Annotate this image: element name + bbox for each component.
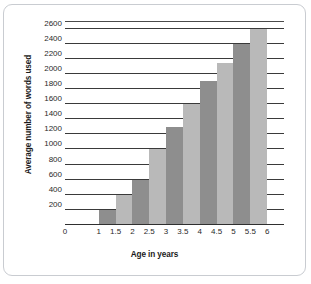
y-tick-label: 600 bbox=[49, 170, 62, 179]
bar bbox=[183, 104, 200, 225]
y-tick-label: 800 bbox=[49, 155, 62, 164]
y-tick-label: 400 bbox=[49, 185, 62, 194]
y-axis-title: Average number of words used bbox=[24, 35, 33, 195]
y-tick-label: 1000 bbox=[44, 139, 62, 148]
plot-top-rule bbox=[65, 21, 284, 22]
x-tick-label: 6 bbox=[265, 227, 269, 236]
bar bbox=[149, 149, 166, 225]
y-tick-label: 2000 bbox=[44, 64, 62, 73]
x-tick-label: 4 bbox=[198, 227, 202, 236]
y-tick-label: 1800 bbox=[44, 79, 62, 88]
bar bbox=[250, 29, 267, 225]
x-axis-title: Age in years bbox=[4, 250, 305, 259]
plot-area: 2004006008001000120014001600180020002200… bbox=[65, 21, 284, 225]
y-tick-label: 1200 bbox=[44, 124, 62, 133]
bar bbox=[132, 180, 149, 225]
y-tick-label: 2200 bbox=[44, 49, 62, 58]
x-tick-label: 1.5 bbox=[110, 227, 121, 236]
bar bbox=[166, 127, 183, 225]
chart-frame: Average number of words used 20040060080… bbox=[3, 4, 306, 276]
x-axis-line bbox=[65, 224, 284, 225]
x-tick-label: 5 bbox=[231, 227, 235, 236]
y-tick-label: 1600 bbox=[44, 94, 62, 103]
x-tick-label: 1 bbox=[96, 227, 100, 236]
y-tick-label: 2600 bbox=[44, 19, 62, 28]
x-tick-label: 0 bbox=[63, 227, 67, 236]
x-tick-label: 4.5 bbox=[211, 227, 222, 236]
x-tick-label: 3 bbox=[164, 227, 168, 236]
y-tick-label: 2400 bbox=[44, 34, 62, 43]
plot-wrapper: 2004006008001000120014001600180020002200… bbox=[34, 15, 292, 243]
x-tick-label: 3.5 bbox=[177, 227, 188, 236]
bar bbox=[233, 44, 250, 225]
x-tick-label: 2.5 bbox=[144, 227, 155, 236]
bar bbox=[99, 210, 116, 225]
x-tick-label: 2 bbox=[130, 227, 134, 236]
x-tick-label: 5.5 bbox=[245, 227, 256, 236]
bar bbox=[200, 81, 217, 225]
bar bbox=[217, 63, 234, 225]
y-tick-label: 200 bbox=[49, 200, 62, 209]
bar bbox=[116, 195, 133, 225]
y-tick-label: 1400 bbox=[44, 109, 62, 118]
